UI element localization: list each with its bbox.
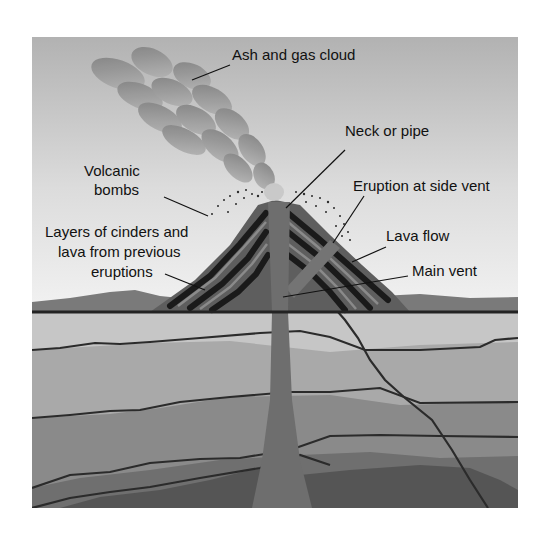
label-layers-1: Layers of cinders and [45, 223, 188, 241]
label-volcanic-bombs-1: Volcanic [84, 162, 140, 180]
label-ash-gas-cloud: Ash and gas cloud [232, 46, 355, 64]
label-layers-2: lava from previous [58, 243, 181, 261]
label-eruption-side-vent: Eruption at side vent [353, 177, 490, 195]
label-volcanic-bombs-2: bombs [94, 181, 139, 199]
label-main-vent: Main vent [412, 262, 477, 280]
label-lava-flow: Lava flow [386, 227, 449, 245]
label-layers-3: eruptions [91, 263, 153, 281]
label-neck-or-pipe: Neck or pipe [345, 122, 429, 140]
